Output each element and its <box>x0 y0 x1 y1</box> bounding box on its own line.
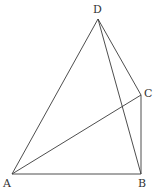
segment-bd <box>98 19 141 174</box>
label-b: B <box>138 177 146 190</box>
label-d: D <box>93 3 102 16</box>
label-c: C <box>144 87 152 100</box>
segment-cd <box>98 19 141 95</box>
tetrahedron-diagram: D C A B <box>0 0 155 192</box>
segment-ad <box>12 19 98 174</box>
label-a: A <box>2 177 12 190</box>
segment-ca <box>12 95 141 174</box>
